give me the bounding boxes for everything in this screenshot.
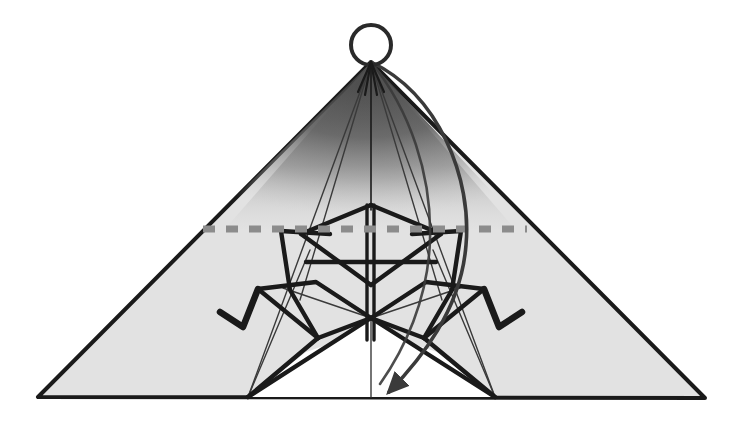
- origami-diagram-figure: Origami crane folding diagram: [0, 0, 744, 434]
- back-layer-shading: [203, 62, 527, 229]
- apex-highlight-circle: [351, 25, 391, 65]
- origami-crane-diagram: Origami crane folding diagram: [0, 0, 744, 434]
